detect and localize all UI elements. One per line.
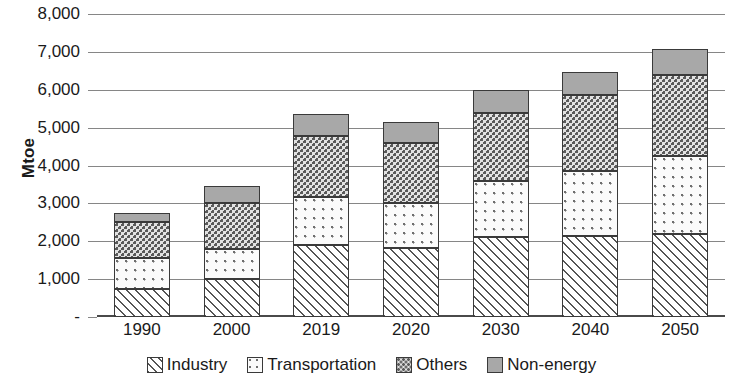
bar-segment-industry[interactable] — [562, 236, 618, 317]
bar-group[interactable] — [383, 14, 439, 317]
bar-segment-non-energy[interactable] — [383, 122, 439, 143]
y-tick-label: 6,000 — [8, 80, 80, 100]
legend-item-transportation[interactable]: Transportation — [247, 355, 376, 375]
legend-label: Transportation — [267, 355, 376, 375]
bar-segment-transportation[interactable] — [562, 171, 618, 235]
y-tick-mark — [88, 90, 97, 91]
legend-item-non-energy[interactable]: Non-energy — [487, 355, 596, 375]
y-tick-label: 8,000 — [8, 4, 80, 24]
y-tick-label: 2,000 — [8, 231, 80, 251]
bar-group[interactable] — [473, 14, 529, 317]
chart-legend: IndustryTransportationOthersNon-energy — [0, 355, 743, 375]
bar-segment-non-energy[interactable] — [114, 213, 170, 222]
bar-segment-industry[interactable] — [204, 279, 260, 317]
y-tick-mark — [88, 128, 97, 129]
plot-area — [97, 14, 725, 317]
y-tick-mark — [88, 166, 97, 167]
bar-segment-non-energy[interactable] — [473, 90, 529, 113]
x-tick-label: 1990 — [97, 320, 187, 340]
bar-segment-transportation[interactable] — [473, 181, 529, 238]
legend-label: Industry — [167, 355, 227, 375]
y-tick-label: 5,000 — [8, 118, 80, 138]
y-tick-label: 4,000 — [8, 156, 80, 176]
legend-label: Others — [416, 355, 467, 375]
bar-segment-others[interactable] — [383, 143, 439, 204]
bar-segment-industry[interactable] — [473, 237, 529, 317]
y-tick-mark — [88, 14, 97, 15]
bar-segment-transportation[interactable] — [114, 258, 170, 288]
y-tick-mark — [88, 279, 97, 280]
stacked-bar-chart: Mtoe -1,0002,0003,0004,0005,0006,0007,00… — [0, 0, 743, 387]
bar-segment-transportation[interactable] — [204, 249, 260, 279]
bar-segment-others[interactable] — [204, 203, 260, 248]
bar-segment-transportation[interactable] — [652, 156, 708, 234]
y-tick-label: 7,000 — [8, 42, 80, 62]
x-tick-label: 2040 — [546, 320, 636, 340]
y-tick-mark — [88, 203, 97, 204]
legend-swatch-icon — [247, 357, 263, 373]
bar-segment-others[interactable] — [473, 113, 529, 181]
y-tick-mark — [88, 317, 97, 318]
legend-swatch-icon — [396, 357, 412, 373]
bar-segment-industry[interactable] — [114, 289, 170, 317]
bars-layer — [97, 14, 725, 317]
bar-group[interactable] — [562, 14, 618, 317]
legend-label: Non-energy — [507, 355, 596, 375]
legend-item-others[interactable]: Others — [396, 355, 467, 375]
y-tick-mark — [88, 241, 97, 242]
bar-segment-others[interactable] — [652, 75, 708, 156]
legend-swatch-icon — [147, 357, 163, 373]
x-tick-label: 2030 — [456, 320, 546, 340]
y-tick-mark — [88, 52, 97, 53]
x-tick-label: 2020 — [366, 320, 456, 340]
x-tick-label: 2019 — [276, 320, 366, 340]
bar-segment-non-energy[interactable] — [204, 186, 260, 203]
bar-segment-others[interactable] — [114, 222, 170, 258]
bar-group[interactable] — [652, 14, 708, 317]
bar-segment-transportation[interactable] — [383, 203, 439, 247]
bar-group[interactable] — [293, 14, 349, 317]
bar-segment-non-energy[interactable] — [562, 72, 618, 95]
legend-item-industry[interactable]: Industry — [147, 355, 227, 375]
bar-group[interactable] — [114, 14, 170, 317]
y-tick-label: - — [8, 307, 80, 327]
bar-segment-industry[interactable] — [383, 248, 439, 317]
bar-group[interactable] — [204, 14, 260, 317]
bar-segment-industry[interactable] — [652, 234, 708, 317]
y-tick-label: 3,000 — [8, 193, 80, 213]
bar-segment-industry[interactable] — [293, 245, 349, 317]
x-tick-label: 2000 — [187, 320, 277, 340]
legend-swatch-icon — [487, 357, 503, 373]
bar-segment-non-energy[interactable] — [293, 114, 349, 136]
bar-segment-others[interactable] — [562, 95, 618, 172]
bar-segment-transportation[interactable] — [293, 197, 349, 245]
x-axis-labels: 1990200020192020203020402050 — [97, 320, 725, 348]
bar-segment-non-energy[interactable] — [652, 49, 708, 76]
x-tick-label: 2050 — [635, 320, 725, 340]
bar-segment-others[interactable] — [293, 136, 349, 196]
y-tick-label: 1,000 — [8, 269, 80, 289]
